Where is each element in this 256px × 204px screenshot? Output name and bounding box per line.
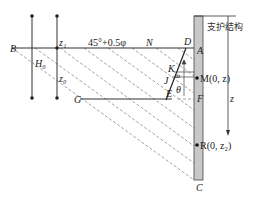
label-z1: z₁ (58, 37, 66, 48)
point-m (195, 76, 199, 80)
support-structure-label: 支护结构 (207, 21, 243, 32)
dim-tick (30, 96, 34, 100)
angle-label: 45°+0.5φ (88, 37, 126, 48)
z-axis-arrow-icon (226, 130, 230, 136)
label-g: G (74, 94, 81, 105)
point-r (195, 143, 199, 147)
label-b: B (10, 43, 16, 54)
dim-tick (55, 14, 59, 18)
label-m: M(0, z) (200, 73, 230, 85)
label-r: R(0, z₂) (200, 140, 231, 152)
label-h0: H₀ (34, 58, 46, 69)
label-n: N (145, 37, 154, 48)
label-d: D (183, 36, 192, 47)
label-dz: dz (175, 73, 181, 79)
label-a: A (196, 45, 204, 56)
label-theta: θ (176, 84, 181, 95)
label-e: E (165, 88, 172, 99)
label-c: C (196, 182, 203, 193)
label-j: J (164, 75, 169, 86)
label-f: F (196, 93, 204, 104)
earth-pressure-diagram: 支护结构 B z₁ 45°+0.5φ N D A H₀ z₀ K J dz θ … (0, 0, 256, 204)
dim-tick (55, 96, 59, 100)
label-z-axis: z (229, 93, 234, 104)
dim-tick (30, 14, 34, 18)
label-z0: z₀ (58, 73, 67, 84)
dimension-lines (32, 16, 57, 98)
